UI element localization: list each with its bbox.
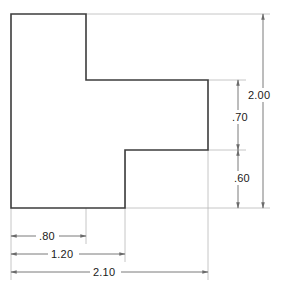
dimension-label-lower-notch-width: 1.20 — [51, 248, 73, 260]
dimension-label-overall-width: 2.10 — [93, 266, 115, 278]
drawing-viewport: 2.00 .70 .60 .80 1.20 2.10 — [0, 0, 283, 287]
dimension-label-lower-step-height: .60 — [234, 172, 250, 184]
dimension-label-left-leg-width: .80 — [39, 230, 55, 242]
stepped-block-outline — [11, 14, 208, 208]
dimension-label-upper-step-height: .70 — [232, 111, 248, 123]
technical-drawing-canvas: 2.00 .70 .60 .80 1.20 2.10 — [0, 0, 283, 287]
dimension-label-overall-height: 2.00 — [248, 89, 270, 101]
